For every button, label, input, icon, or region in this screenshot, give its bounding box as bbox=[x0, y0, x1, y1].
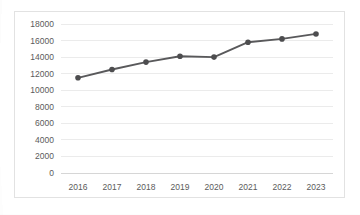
x-axis-tick-label: 2020 bbox=[205, 182, 224, 192]
x-axis-tick-label: 2019 bbox=[171, 182, 190, 192]
x-axis-tick-label: 2021 bbox=[239, 182, 258, 192]
y-axis-tick-label: 10000 bbox=[30, 85, 54, 95]
y-axis-tick-labels: 0200040006000800010000120001400016000180… bbox=[30, 19, 54, 178]
x-axis-tick-label: 2023 bbox=[307, 182, 326, 192]
x-axis-tick-label: 2018 bbox=[137, 182, 156, 192]
y-axis-tick-label: 16000 bbox=[30, 36, 54, 46]
y-axis-tick-label: 14000 bbox=[30, 52, 54, 62]
data-point-marker bbox=[109, 67, 115, 73]
x-axis-tick-label: 2016 bbox=[69, 182, 88, 192]
data-point-marker bbox=[313, 31, 319, 37]
data-point-marker bbox=[211, 54, 217, 60]
data-point-marker bbox=[279, 36, 285, 42]
y-axis-tick-label: 4000 bbox=[35, 135, 54, 145]
y-axis-tick-label: 18000 bbox=[30, 19, 54, 29]
gridlines-group bbox=[61, 24, 333, 173]
line-chart-plot: 0200040006000800010000120001400016000180… bbox=[15, 12, 344, 197]
y-axis-tick-label: 2000 bbox=[35, 151, 54, 161]
data-point-marker bbox=[143, 59, 149, 65]
data-point-marker bbox=[177, 53, 183, 59]
chart-frame: 0200040006000800010000120001400016000180… bbox=[14, 11, 345, 198]
data-point-marker bbox=[245, 39, 251, 45]
data-point-marker bbox=[75, 75, 81, 81]
y-axis-tick-label: 0 bbox=[49, 168, 54, 178]
x-axis-tick-label: 2022 bbox=[273, 182, 292, 192]
x-axis-tick-label: 2017 bbox=[103, 182, 122, 192]
x-axis-tick-labels: 20162017201820192020202120222023 bbox=[69, 182, 326, 192]
y-axis-tick-label: 8000 bbox=[35, 102, 54, 112]
y-axis-tick-label: 12000 bbox=[30, 69, 54, 79]
y-axis-tick-label: 6000 bbox=[35, 118, 54, 128]
